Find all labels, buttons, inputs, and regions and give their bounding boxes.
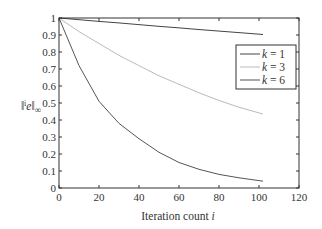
x-tick-label: 60	[174, 191, 186, 203]
legend: k = 1k = 3k = 6	[236, 45, 296, 89]
svg-text:‖ie‖∞: ‖ie‖∞	[21, 99, 41, 115]
y-tick-label: 0.6	[42, 80, 56, 92]
y-tick-label: 0.2	[42, 148, 56, 160]
series-line-k1	[59, 18, 263, 34]
y-tick-label: 0	[51, 182, 57, 194]
x-tick-label: 0	[56, 191, 62, 203]
legend-label: k = 3	[262, 61, 285, 73]
y-tick-label: 0.3	[42, 131, 56, 143]
x-tick-label: 20	[94, 191, 106, 203]
x-tick-label: 40	[134, 191, 146, 203]
legend-label: k = 6	[262, 74, 285, 86]
x-axis-title: Iteration count i	[141, 210, 214, 222]
x-tick-label: 100	[251, 191, 268, 203]
y-tick-label: 0.1	[42, 165, 56, 177]
y-tick-label: 0.4	[42, 114, 56, 126]
x-tick-label: 120	[291, 191, 308, 203]
y-tick-label: 0.7	[42, 63, 56, 75]
y-tick-label: 1	[51, 12, 57, 24]
y-axis-title: ‖ie‖∞	[21, 99, 41, 115]
plot-area	[59, 18, 263, 181]
legend-label: k = 1	[262, 48, 285, 60]
axes: 02040608010012000.10.20.30.40.50.60.70.8…	[42, 12, 308, 203]
series-line-k6	[59, 18, 263, 181]
line-chart: 02040608010012000.10.20.30.40.50.60.70.8…	[0, 0, 322, 229]
y-tick-label: 0.8	[42, 46, 56, 58]
x-tick-label: 80	[214, 191, 226, 203]
y-tick-label: 0.5	[42, 97, 56, 109]
y-tick-label: 0.9	[42, 29, 56, 41]
